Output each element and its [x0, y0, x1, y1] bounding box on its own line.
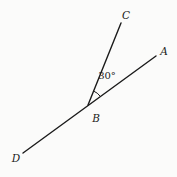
- angle-measure-label: 30°: [98, 71, 116, 81]
- point-label-c: C: [122, 10, 130, 21]
- diagram-lines: [0, 0, 177, 177]
- point-label-a: A: [160, 46, 168, 57]
- point-label-b: B: [92, 113, 100, 124]
- angle-arc: [94, 91, 101, 96]
- geometry-diagram: C A B D 30°: [0, 0, 177, 177]
- point-label-d: D: [12, 153, 20, 164]
- segment-DA: [23, 56, 156, 153]
